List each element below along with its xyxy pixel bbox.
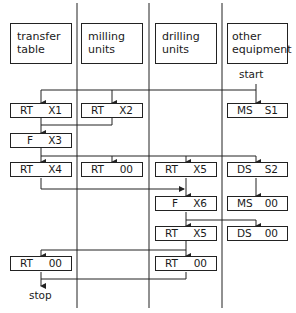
step-rt-x1: RTX1 xyxy=(10,103,72,118)
step-arg: X5 xyxy=(193,227,207,240)
step-ms-s1: MSS1 xyxy=(227,103,288,118)
step-f-x3: FX3 xyxy=(10,133,72,148)
step-op: F xyxy=(172,197,178,210)
step-arg: S2 xyxy=(265,163,278,176)
step-op: F xyxy=(27,134,33,147)
step-rt-00-drilling: RT00 xyxy=(155,256,217,271)
step-arg: X3 xyxy=(48,134,62,147)
step-op: RT xyxy=(91,163,104,176)
step-arg: X1 xyxy=(48,104,62,117)
step-arg: X2 xyxy=(119,104,133,117)
step-op: RT xyxy=(165,257,178,270)
step-rt-00-milling: RT00 xyxy=(81,162,143,177)
step-arg: X5 xyxy=(193,163,207,176)
step-arg: 00 xyxy=(265,197,278,210)
column-header-other-equipment: other equipment xyxy=(227,23,288,64)
step-arg: 00 xyxy=(194,257,207,270)
stop-label: stop xyxy=(29,289,52,301)
step-rt-x2: RTX2 xyxy=(81,103,143,118)
step-op: RT xyxy=(20,104,33,117)
start-label: start xyxy=(239,68,263,80)
column-header-transfer-table: transfer table xyxy=(10,23,72,64)
step-rt-00-transfer: RT00 xyxy=(10,256,72,271)
step-op: DS xyxy=(237,163,252,176)
header-line2: units xyxy=(162,43,216,56)
column-header-drilling-units: drilling units xyxy=(155,23,217,64)
step-rt-x4: RTX4 xyxy=(10,162,72,177)
step-ds-00: DS00 xyxy=(227,226,288,241)
step-arg: 00 xyxy=(120,163,133,176)
step-op: RT xyxy=(165,227,178,240)
step-arg: 00 xyxy=(265,227,278,240)
column-header-milling-units: milling units xyxy=(81,23,143,64)
step-arg: S1 xyxy=(265,104,278,117)
header-line2: table xyxy=(17,43,71,56)
header-line1: milling xyxy=(88,30,142,43)
step-op: RT xyxy=(20,163,33,176)
header-line1: other xyxy=(232,30,287,43)
step-rt-x5-second: RTX5 xyxy=(155,226,217,241)
header-line1: drilling xyxy=(162,30,216,43)
step-arg: X6 xyxy=(193,197,207,210)
header-line2: equipment xyxy=(232,43,287,56)
step-op: DS xyxy=(237,227,252,240)
step-op: RT xyxy=(20,257,33,270)
step-arg: X4 xyxy=(48,163,62,176)
step-arg: 00 xyxy=(49,257,62,270)
step-op: MS xyxy=(237,104,253,117)
header-line2: units xyxy=(88,43,142,56)
step-rt-x5-first: RTX5 xyxy=(155,162,217,177)
step-op: MS xyxy=(237,197,253,210)
step-op: RT xyxy=(91,104,104,117)
step-op: RT xyxy=(165,163,178,176)
step-ds-s2: DSS2 xyxy=(227,162,288,177)
step-ms-00: MS00 xyxy=(227,196,288,211)
header-line1: transfer xyxy=(17,30,71,43)
step-f-x6: FX6 xyxy=(155,196,217,211)
